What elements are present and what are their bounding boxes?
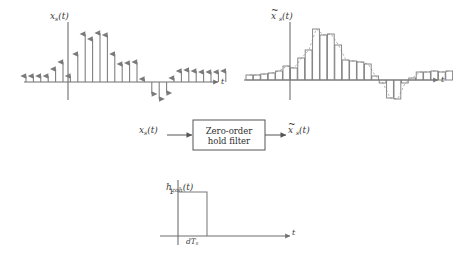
block-output-label: x ~ s(t)	[288, 126, 310, 136]
figure-mark	[24, 22, 226, 100]
hold-bar	[424, 72, 431, 80]
hold-bar	[394, 80, 401, 99]
hold-bar	[357, 62, 364, 80]
hold-bar	[416, 72, 423, 80]
block-label-line1: Zero-order	[196, 126, 262, 136]
rectangular-pulse	[178, 192, 207, 236]
hold-bar	[350, 61, 357, 80]
hold-bar	[320, 35, 327, 80]
hold-bar	[446, 71, 453, 80]
impulse-response-x-axis-label: t	[292, 229, 295, 237]
hold-bar	[261, 74, 268, 80]
sampled-signal-x-axis-label: t	[221, 78, 224, 86]
hold-bar	[372, 76, 379, 80]
block-input-label: xs(t)	[139, 126, 158, 136]
figure-mark	[244, 22, 453, 100]
hold-bar	[387, 80, 394, 98]
hold-bar	[276, 71, 283, 80]
hold-bar	[409, 78, 416, 80]
zoh-output-x-axis-label: t	[441, 76, 444, 84]
figure-canvas: xs(t) t x ~ s(t) t xs(t) Zero-order hold…	[0, 0, 453, 253]
hold-bar	[431, 71, 438, 80]
zero-order-hold-block-label: Zero-order hold filter	[196, 126, 262, 147]
hold-bar	[305, 50, 312, 80]
impulse-width-tick: dTs	[186, 238, 198, 247]
hold-bar	[379, 80, 386, 83]
hold-bar	[342, 60, 349, 80]
block-label-line2: hold filter	[196, 136, 262, 146]
hold-bar	[268, 73, 275, 80]
hold-bar	[246, 75, 253, 80]
hold-bar	[327, 34, 334, 80]
zoh-output-label: x ~ s(t)	[271, 12, 293, 22]
hold-bar	[335, 45, 342, 80]
sampled-signal-label: xs(t)	[50, 12, 69, 22]
hold-bar	[253, 75, 260, 80]
hold-bar	[290, 68, 297, 80]
impulse-amplitude-tick: 1	[169, 188, 174, 196]
hold-bar	[364, 64, 371, 80]
